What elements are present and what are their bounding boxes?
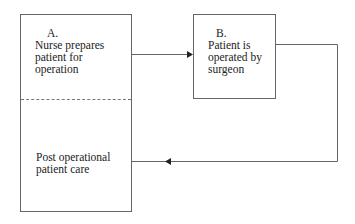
- arrowhead-left-icon: [165, 158, 171, 165]
- arrow-b-to-c: [132, 45, 338, 162]
- arrowhead-right-icon: [187, 51, 193, 58]
- connectors: [0, 0, 355, 224]
